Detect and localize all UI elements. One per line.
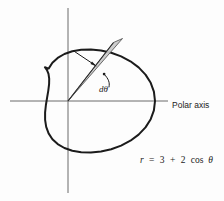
equation-constant-term: 3 — [160, 155, 165, 165]
equation-equals-symbol: = — [149, 155, 154, 165]
polar-figure-container: dθ Polar axis r = 3 + 2 cos θ — [0, 0, 224, 201]
curve-equation-label: r = 3 + 2 cos θ — [140, 155, 213, 165]
differential-sector-wedge — [68, 39, 123, 102]
polar-axis-label: Polar axis — [172, 100, 209, 110]
dtheta-leader-dot — [103, 73, 106, 76]
equation-coefficient: 2 — [181, 155, 186, 165]
equation-theta-symbol: θ — [208, 155, 213, 165]
equation-plus-symbol: + — [170, 155, 175, 165]
equation-r-symbol: r — [140, 155, 144, 165]
polar-figure-svg: dθ Polar axis r = 3 + 2 cos θ — [0, 0, 224, 201]
dtheta-label: dθ — [99, 84, 109, 94]
equation-cos-function: cos — [191, 155, 204, 165]
